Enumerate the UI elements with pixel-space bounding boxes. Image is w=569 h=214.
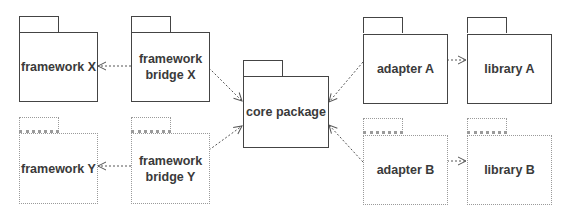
package-body: library A [467,34,552,104]
package-tab [467,118,507,134]
arrow-bridge-x-to-core [209,68,242,101]
package-tab [19,117,59,133]
package-label: adapter A [377,61,434,77]
package-tab [363,118,403,134]
package-tab [243,60,283,76]
package-tab [131,117,171,133]
package-tab [467,17,507,33]
package-label: core package [246,104,326,120]
package-body: adapter B [363,135,448,205]
package-tab [131,16,171,32]
package-body: framework Y [19,133,98,204]
package-label: adapter B [377,162,435,178]
package-label: framework bridge Y [139,153,202,185]
package-tab [19,16,59,32]
arrow-adapter-a-to-core [329,62,363,102]
package-body: framework bridge Y [131,133,210,204]
package-body: adapter A [363,34,448,104]
package-label: framework Y [21,161,96,177]
package-label: framework X [21,59,96,75]
arrow-bridge-y-to-core [209,126,242,150]
package-body: framework bridge X [131,32,210,102]
arrow-adapter-b-to-core [329,125,363,162]
package-tab [363,17,403,33]
package-label: library B [484,162,535,178]
package-body: library B [467,135,552,205]
package-label: framework bridge X [139,51,202,83]
package-label: library A [484,61,534,77]
package-body: framework X [19,32,98,102]
package-body: core package [243,76,329,148]
